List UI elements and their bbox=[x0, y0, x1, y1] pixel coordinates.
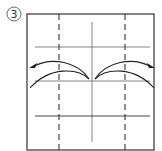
paper-square bbox=[27, 14, 154, 150]
step-number: 3 bbox=[11, 8, 18, 21]
origami-diagram: 3 bbox=[0, 0, 162, 151]
step-number-badge: 3 bbox=[7, 7, 21, 21]
